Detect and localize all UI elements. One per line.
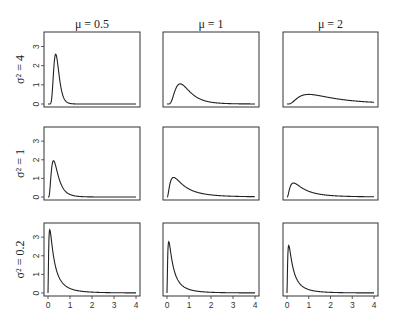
density-curve bbox=[48, 54, 136, 104]
y-tick-label: 2 bbox=[31, 253, 41, 258]
y-tick-label: 1 bbox=[31, 82, 41, 87]
panel-frame bbox=[44, 223, 140, 296]
row-label: σ² = 4 bbox=[13, 55, 27, 84]
density-curve bbox=[287, 246, 374, 293]
y-tick-label: 1 bbox=[31, 176, 41, 181]
y-tick-label: 3 bbox=[31, 139, 41, 144]
x-tick-label: 3 bbox=[112, 300, 117, 310]
column-title: μ = 2 bbox=[318, 17, 343, 31]
row-label: σ² = 0.2 bbox=[13, 241, 27, 279]
y-tick-label: 3 bbox=[31, 235, 41, 240]
x-tick-label: 4 bbox=[372, 300, 377, 310]
density-curve bbox=[167, 242, 255, 293]
x-tick-label: 3 bbox=[350, 300, 355, 310]
density-curve bbox=[48, 161, 136, 197]
panel-frame bbox=[44, 127, 140, 200]
density-grid-chart: 012301230123012340123401234μ = 0.5μ = 1μ… bbox=[0, 0, 397, 327]
x-tick-label: 2 bbox=[328, 300, 333, 310]
x-tick-label: 1 bbox=[187, 300, 192, 310]
y-tick-label: 0 bbox=[31, 101, 41, 106]
x-tick-label: 0 bbox=[46, 300, 51, 310]
y-tick-label: 2 bbox=[31, 63, 41, 68]
panel-frame bbox=[283, 127, 378, 200]
row-label: σ² = 1 bbox=[13, 149, 27, 178]
x-tick-label: 0 bbox=[285, 300, 290, 310]
x-tick-label: 2 bbox=[209, 300, 214, 310]
density-curve bbox=[167, 177, 255, 197]
y-tick-label: 0 bbox=[31, 290, 41, 295]
y-tick-label: 0 bbox=[31, 194, 41, 199]
x-tick-label: 1 bbox=[306, 300, 311, 310]
density-curve bbox=[167, 84, 255, 104]
density-curve bbox=[287, 94, 374, 104]
x-tick-label: 4 bbox=[253, 300, 258, 310]
panel-frame bbox=[283, 32, 378, 107]
y-tick-label: 3 bbox=[31, 44, 41, 49]
column-title: μ = 0.5 bbox=[75, 17, 109, 31]
density-curve bbox=[48, 230, 136, 293]
y-tick-label: 1 bbox=[31, 272, 41, 277]
x-tick-label: 1 bbox=[68, 300, 73, 310]
x-tick-label: 3 bbox=[231, 300, 236, 310]
density-curve bbox=[287, 183, 374, 197]
panel-frame bbox=[163, 32, 259, 107]
y-tick-label: 2 bbox=[31, 157, 41, 162]
x-tick-label: 2 bbox=[90, 300, 95, 310]
column-title: μ = 1 bbox=[198, 17, 223, 31]
x-tick-label: 4 bbox=[134, 300, 139, 310]
panel-frame bbox=[283, 223, 378, 296]
x-tick-label: 0 bbox=[165, 300, 170, 310]
panel-frame bbox=[163, 127, 259, 200]
panel-frame bbox=[163, 223, 259, 296]
